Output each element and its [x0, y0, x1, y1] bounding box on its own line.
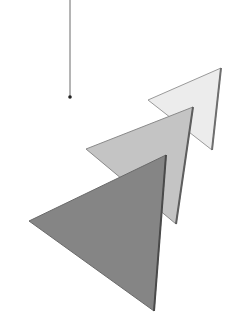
triangle-arrows — [29, 68, 221, 311]
triangle-dark — [29, 155, 166, 311]
pendulum-dot — [68, 95, 72, 99]
arrows-diagram — [0, 0, 243, 330]
